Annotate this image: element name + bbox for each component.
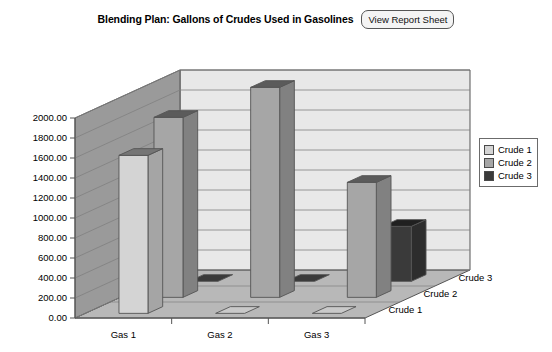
bar-side-face	[376, 176, 391, 298]
bar-side-face	[280, 81, 295, 298]
chart-header: Blending Plan: Gallons of Crudes Used in…	[0, 8, 552, 30]
y-axis-tick-label: 600.00	[0, 252, 67, 263]
chart-plot-area: 2000.001800.001600.001400.001200.001000.…	[0, 28, 552, 352]
y-axis-tick-label: 1600.00	[0, 152, 67, 163]
legend-item-label: Crude 2	[498, 157, 532, 168]
legend-item[interactable]: Crude 1	[484, 143, 532, 156]
z-axis-category-label: Crude 2	[424, 288, 458, 299]
legend-item[interactable]: Crude 2	[484, 156, 532, 169]
view-report-sheet-button[interactable]: View Report Sheet	[361, 10, 454, 29]
y-axis-tick-label: 1400.00	[0, 172, 67, 183]
legend-swatch-icon	[484, 158, 494, 168]
z-axis-category-label: Crude 1	[389, 304, 423, 315]
y-axis-tick-label: 800.00	[0, 232, 67, 243]
chart-3d-canvas	[0, 28, 552, 352]
x-axis-category-label: Gas 1	[78, 329, 168, 340]
page-title: Blending Plan: Gallons of Crudes Used in…	[98, 13, 354, 25]
y-axis-tick-label: 1200.00	[0, 192, 67, 203]
bar-front-face	[347, 182, 376, 297]
chart-page: Blending Plan: Gallons of Crudes Used in…	[0, 0, 552, 352]
y-axis-tick-label: 0.00	[0, 312, 67, 323]
y-axis-tick-label: 1000.00	[0, 212, 67, 223]
legend-item[interactable]: Crude 3	[484, 169, 532, 182]
bar-side-face	[183, 111, 198, 298]
bar-front-face	[251, 87, 280, 297]
bar-front-face	[119, 155, 148, 313]
y-axis-tick-label: 2000.00	[0, 112, 67, 123]
legend-swatch-icon	[484, 145, 494, 155]
legend-item-label: Crude 1	[498, 144, 532, 155]
legend-item-label: Crude 3	[498, 170, 532, 181]
x-axis-category-label: Gas 3	[272, 329, 362, 340]
x-axis-category-label: Gas 2	[175, 329, 265, 340]
chart-legend: Crude 1 Crude 2 Crude 3	[479, 138, 538, 187]
z-axis-category-label: Crude 3	[459, 272, 493, 283]
bar-side-face	[411, 220, 426, 282]
y-axis-tick-label: 1800.00	[0, 132, 67, 143]
y-axis-tick-label: 200.00	[0, 292, 67, 303]
y-axis-tick-label: 400.00	[0, 272, 67, 283]
legend-swatch-icon	[484, 171, 494, 181]
bar-side-face	[148, 149, 163, 314]
